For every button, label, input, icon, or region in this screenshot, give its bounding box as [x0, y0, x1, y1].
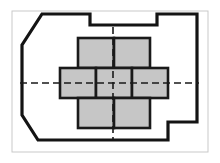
- module-top-right: [114, 38, 150, 68]
- module-bottom-right: [114, 98, 150, 128]
- module-top-left: [78, 38, 114, 68]
- floor-plan-diagram: [0, 0, 220, 163]
- module-bottom-left: [78, 98, 114, 128]
- figure-container: Floor plan with symmetry centerlines Arc…: [0, 0, 220, 163]
- module-middle-right: [132, 68, 168, 98]
